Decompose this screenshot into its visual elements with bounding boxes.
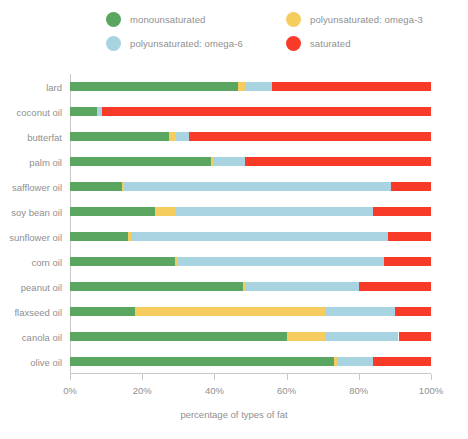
x-axis-tick [431, 374, 432, 380]
bar-segment [326, 307, 395, 316]
bar-segment [384, 257, 431, 266]
x-axis-tick-label: 40% [205, 385, 224, 396]
bar-row [70, 82, 431, 91]
x-axis-tick [70, 374, 71, 380]
bar-segment [395, 307, 431, 316]
bar-segment [70, 107, 97, 116]
x-axis-tick [142, 374, 143, 380]
legend-item-monounsaturated[interactable]: monounsaturated [106, 12, 205, 27]
bar-segment [176, 207, 373, 216]
legend-item-omega-6[interactable]: polyunsaturated: omega-6 [106, 36, 243, 51]
bar-row [70, 207, 431, 216]
x-axis-tick-label: 0% [63, 385, 77, 396]
y-axis-label: palm oil [29, 156, 62, 167]
bar-segment [287, 332, 327, 341]
bar-segment [326, 332, 398, 341]
bar-segment [169, 132, 176, 141]
legend-item-omega-3[interactable]: polyunsaturated: omega-3 [286, 12, 423, 27]
x-axis-tick [214, 374, 215, 380]
x-axis-tick-label: 80% [349, 385, 368, 396]
bar-segment [135, 307, 326, 316]
bar-row [70, 107, 431, 116]
bar-segment [124, 182, 391, 191]
bar-row [70, 332, 431, 341]
bar-segment [337, 357, 373, 366]
legend-swatch-omega-6 [106, 36, 121, 51]
bar-segment [70, 132, 169, 141]
x-axis-tick-label: 100% [419, 385, 443, 396]
bar-segment [70, 332, 287, 341]
x-axis-tick [287, 374, 288, 380]
bar-segment [102, 107, 431, 116]
legend-item-saturated[interactable]: saturated [286, 36, 351, 51]
y-axis-label: sunflower oil [9, 231, 62, 242]
x-axis-tick-label: 20% [133, 385, 152, 396]
x-axis-tick-label: 60% [277, 385, 296, 396]
y-axis-label: corn oil [31, 256, 62, 267]
legend-swatch-saturated [286, 36, 301, 51]
bar-segment [70, 257, 175, 266]
bar-segment [399, 332, 431, 341]
y-axis-label: lard [46, 81, 62, 92]
bar-segment [245, 157, 431, 166]
bar-segment [272, 82, 431, 91]
bar-segment [70, 232, 128, 241]
bar-segment [391, 182, 431, 191]
bar-segment [189, 132, 431, 141]
bar-segment [373, 357, 431, 366]
y-axis-label: safflower oil [12, 181, 62, 192]
y-axis-label: peanut oil [21, 281, 62, 292]
bar-row [70, 282, 431, 291]
bar-segment [245, 282, 359, 291]
bar-row [70, 357, 431, 366]
bar-segment [373, 207, 431, 216]
bar-segment [155, 207, 177, 216]
bar-segment [70, 307, 135, 316]
y-axis-label: flaxseed oil [14, 306, 62, 317]
bar-segment [70, 82, 238, 91]
chart-legend: monounsaturated polyunsaturated: omega-3… [0, 12, 468, 62]
bar-segment [178, 257, 384, 266]
x-axis-line [70, 373, 431, 374]
bar-row [70, 132, 431, 141]
y-axis-label: canola oil [22, 331, 62, 342]
bar-row [70, 257, 431, 266]
legend-label-saturated: saturated [310, 38, 351, 49]
y-axis-label: olive oil [30, 356, 62, 367]
x-axis-tick [359, 374, 360, 380]
bar-row [70, 157, 431, 166]
bar-row [70, 182, 431, 191]
bar-segment [131, 232, 387, 241]
legend-label-monounsaturated: monounsaturated [130, 14, 205, 25]
legend-swatch-omega-3 [286, 12, 301, 27]
bar-segment [70, 182, 122, 191]
bar-segment [70, 207, 155, 216]
y-axis-label: soy bean oil [11, 206, 62, 217]
bar-segment [70, 282, 243, 291]
y-axis-labels: lardcoconut oilbutterfatpalm oilsafflowe… [0, 74, 70, 374]
plot-area: 0%20%40%60%80%100% [70, 74, 431, 374]
bar-segment [213, 157, 245, 166]
bar-segment [70, 357, 334, 366]
bar-segment [359, 282, 431, 291]
legend-label-omega-6: polyunsaturated: omega-6 [130, 38, 243, 49]
bar-segment [176, 132, 189, 141]
bar-segment [70, 157, 211, 166]
fat-composition-chart: monounsaturated polyunsaturated: omega-3… [0, 0, 468, 439]
y-axis-line [70, 74, 71, 374]
y-axis-label: coconut oil [17, 106, 62, 117]
bar-row [70, 232, 431, 241]
x-axis-title: percentage of types of fat [0, 409, 468, 420]
y-axis-label: butterfat [27, 131, 62, 142]
legend-label-omega-3: polyunsaturated: omega-3 [310, 14, 423, 25]
legend-swatch-monounsaturated [106, 12, 121, 27]
bar-segment [245, 82, 272, 91]
bar-segment [238, 82, 245, 91]
bar-row [70, 307, 431, 316]
bar-segment [388, 232, 431, 241]
